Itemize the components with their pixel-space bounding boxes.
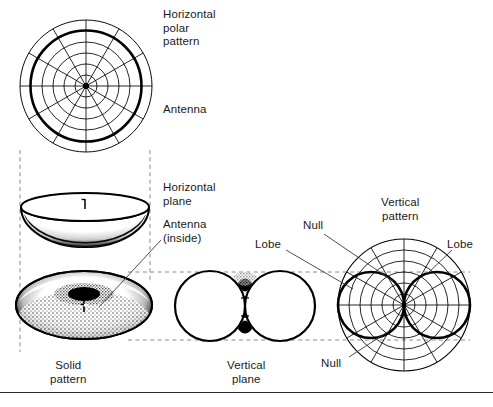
label-horizontal-polar-pattern: Horizontal polar pattern (163, 8, 216, 49)
horizontal-plane-dish (21, 193, 149, 258)
horizontal-polar-pattern (20, 20, 152, 152)
label-lobe-right: Lobe (447, 238, 473, 252)
caption-divider (0, 392, 493, 393)
figure-canvas: Horizontal polar pattern Antenna Horizon… (0, 0, 493, 407)
label-vertical-pattern: Vertical pattern (381, 196, 420, 223)
label-solid-pattern: Solid pattern (50, 359, 87, 386)
label-horizontal-plane: Horizontal plane (163, 181, 216, 208)
solid-pattern-torus (16, 271, 152, 345)
label-null-bottom: Null (321, 357, 341, 371)
antenna-center-dot (83, 83, 89, 89)
vertical-plane-figure-eight (175, 271, 315, 341)
label-antenna-inside: Antenna (inside) (163, 218, 207, 245)
label-antenna: Antenna (163, 103, 207, 117)
label-lobe-left: Lobe (255, 238, 281, 252)
polar-center-dot (402, 303, 406, 307)
label-null-top: Null (303, 219, 323, 233)
label-vertical-plane: Vertical plane (227, 359, 266, 386)
